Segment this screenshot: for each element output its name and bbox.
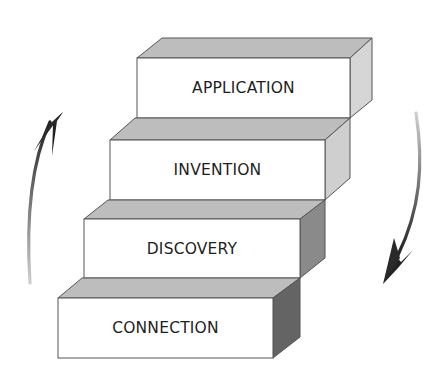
up-arrow-icon <box>29 112 63 283</box>
step-discovery <box>84 200 325 278</box>
step-invention-label: INVENTION <box>110 161 325 179</box>
step-application-label: APPLICATION <box>137 79 350 97</box>
step-invention <box>110 118 350 200</box>
step-connection-top <box>58 278 300 298</box>
step-invention-top <box>110 118 350 140</box>
step-application <box>137 38 372 118</box>
step-discovery-top <box>84 200 325 219</box>
down-arrow-icon <box>383 113 420 284</box>
staircase-diagram: APPLICATION INVENTION DISCOVERY CONNECTI… <box>0 0 448 385</box>
step-discovery-label: DISCOVERY <box>84 240 300 258</box>
step-connection <box>58 278 300 358</box>
step-application-top <box>137 38 372 58</box>
step-connection-label: CONNECTION <box>58 319 273 337</box>
